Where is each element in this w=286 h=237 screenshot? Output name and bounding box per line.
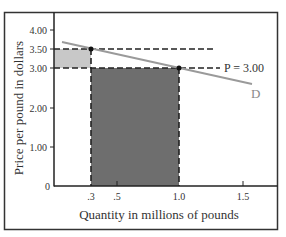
y-tick-label-4.00: 4.00 [30,25,48,36]
expenditure-region [91,68,179,186]
y-tick-label-2.00: 2.00 [30,103,48,114]
x-tick-label-1.0: 1.0 [173,191,186,202]
point-0.3-3.50 [89,47,94,52]
x-tick-label-0.3: .3 [87,191,95,202]
price-annotation: P = 3.00 [224,61,264,75]
y-axis-title: Price per pound in dollars [11,41,26,175]
chart: 4.00 3.50 3.00 2.00 1.00 0 .3 .5 1.0 1.5… [0,0,286,237]
x-axis-title: Quantity in millions of pounds [79,207,239,222]
y-tick-label-3.00: 3.00 [30,63,48,74]
consumer-surplus-region [54,49,91,68]
y-tick-label-0: 0 [45,181,50,192]
y-tick-label-3.50: 3.50 [30,44,48,55]
x-tick-label-1.5: 1.5 [237,191,250,202]
x-tick-label-0.5: .5 [113,191,121,202]
demand-curve-label: D [251,86,260,101]
y-tick-label-1.00: 1.00 [30,142,48,153]
point-1.0-3.00 [177,66,182,71]
